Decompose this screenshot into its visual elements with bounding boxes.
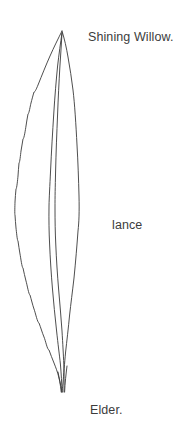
leaf-drawing-group [15,31,79,392]
leaf-right-margin-entire [62,31,79,392]
label-leaf-shape: lance [112,219,142,232]
leaf-illustration [0,0,193,422]
label-family-name: Elder. [90,404,123,417]
leaf-petiole-stroke-left [58,372,61,392]
label-common-name: Shining Willow. [88,31,174,44]
leaf-petiole-stroke-right [65,366,67,392]
leaf-midrib-line-b [55,33,64,392]
illustration-page: Shining Willow. lance Elder. [0,0,193,422]
